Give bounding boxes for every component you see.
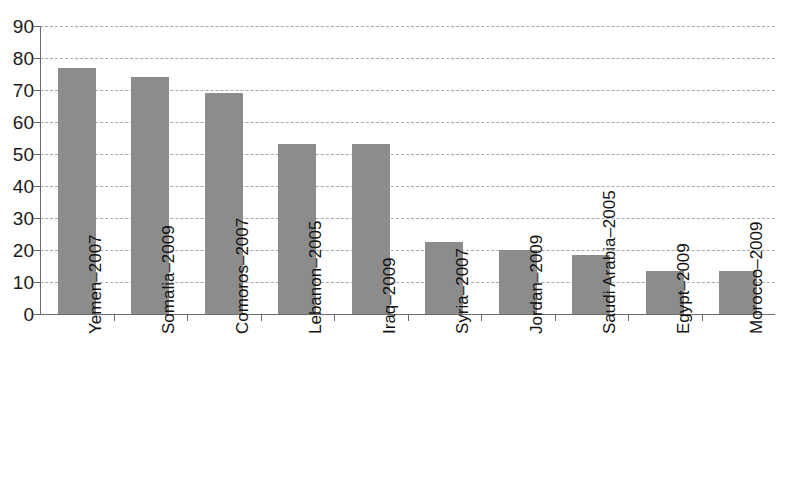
x-axis-tick-label: Jordan–2009 bbox=[527, 235, 547, 334]
x-axis-tick-label: Comoros–2007 bbox=[233, 218, 253, 334]
x-axis-tick-label: Yemen–2007 bbox=[86, 234, 106, 334]
chart-screenshot: 9080706050403020100 Yemen–2007Somalia–20… bbox=[0, 0, 789, 489]
x-axis-tick-label: Saudi Arabia–2005 bbox=[600, 190, 620, 334]
bar-chart: 9080706050403020100 Yemen–2007Somalia–20… bbox=[0, 0, 789, 489]
x-axis-tick-label: Lebanon–2005 bbox=[306, 221, 326, 334]
x-axis-tick-label: Iraq–2009 bbox=[380, 257, 400, 334]
x-axis-tick-label: Somalia–2009 bbox=[159, 225, 179, 334]
x-axis-tick-label: Egypt–2009 bbox=[674, 243, 694, 334]
x-axis-tick-label: Syria–2007 bbox=[453, 248, 473, 334]
x-axis-tick-label: Morocco–2009 bbox=[747, 222, 767, 334]
x-axis-tick-labels: Yemen–2007Somalia–2009Comoros–2007Lebano… bbox=[0, 314, 789, 489]
